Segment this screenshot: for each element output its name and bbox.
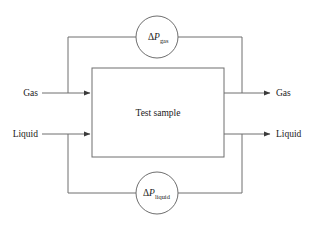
gas-gauge-subscript: gas — [160, 37, 169, 44]
liquid-gauge-subscript: liquid — [155, 193, 171, 200]
diagram-canvas: Test sample Gas Liquid Gas Liquid ΔPgas — [0, 0, 313, 226]
liquid-inlet-label: Liquid — [13, 129, 39, 139]
gas-outlet-label: Gas — [276, 88, 291, 98]
gas-inlet-label: Gas — [23, 88, 38, 98]
test-sample-label: Test sample — [136, 108, 181, 118]
liquid-outlet-label: Liquid — [276, 129, 302, 139]
process-flow-diagram: Test sample Gas Liquid Gas Liquid ΔPgas — [0, 0, 313, 226]
